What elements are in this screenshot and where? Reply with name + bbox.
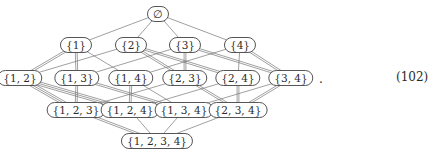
node-1: {1} <box>60 37 92 53</box>
node-1234: {1, 2, 3, 4} <box>121 133 193 149</box>
node-134: {1, 3, 4} <box>155 102 214 118</box>
node-234: {2, 3, 4} <box>209 102 268 118</box>
node-123: {1, 2, 3} <box>47 102 106 118</box>
node-23: {2, 3} <box>162 70 207 86</box>
node-2: {2} <box>115 37 147 53</box>
node-124: {1, 2, 4} <box>101 102 160 118</box>
node-34: {3, 4} <box>268 70 313 86</box>
node-14: {1, 4} <box>108 70 153 86</box>
node-4: {4} <box>224 37 256 53</box>
node-24: {2, 4} <box>215 70 260 86</box>
equation-number: (102) <box>396 70 428 84</box>
hasse-diagram: ∅{1}{2}{3}{4}{1, 2}{1, 3}{1, 4}{2, 3}{2,… <box>0 0 445 154</box>
node-3: {3} <box>169 37 201 53</box>
trailing-period: . <box>319 72 323 86</box>
node-12: {1, 2} <box>0 70 43 86</box>
node-e: ∅ <box>147 6 169 22</box>
node-13: {1, 3} <box>54 70 99 86</box>
